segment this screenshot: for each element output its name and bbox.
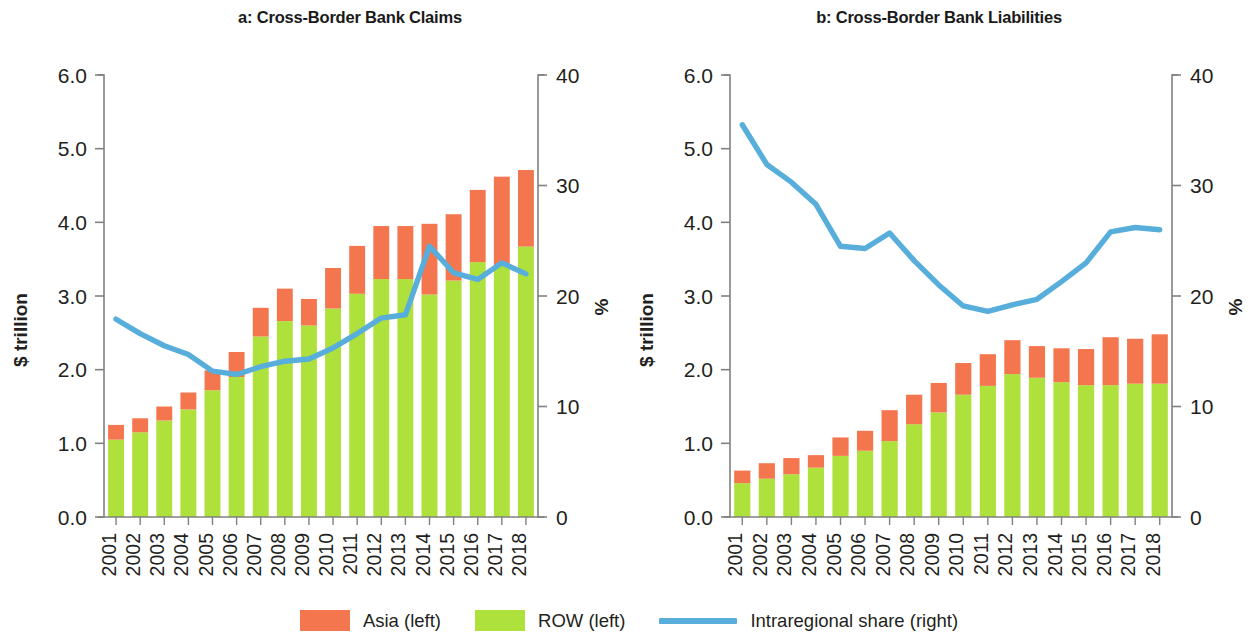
x-tick-label: 2007 xyxy=(243,533,265,576)
x-tick-label: 2004 xyxy=(798,533,820,577)
bar-segment-asia xyxy=(808,455,824,468)
intraregional-share-line xyxy=(116,246,526,374)
bar-segment-asia xyxy=(1029,346,1045,378)
bar-segment-asia xyxy=(832,437,848,455)
right-tick-label: 30 xyxy=(556,174,579,197)
legend-intraregional-share[interactable]: Intraregional share (right) xyxy=(659,610,958,632)
bar-segment-asia xyxy=(783,458,799,474)
bar-segment-row xyxy=(1103,385,1119,517)
bars-group xyxy=(108,170,534,517)
legend-color-swatch xyxy=(300,610,350,631)
bar-segment-asia xyxy=(494,177,510,265)
bar-segment-asia xyxy=(108,425,124,440)
bar-segment-row xyxy=(156,421,172,518)
bar-segment-row xyxy=(1004,374,1020,517)
bar-segment-row xyxy=(734,483,750,517)
left-tick-label: 0.0 xyxy=(58,506,87,529)
bar-segment-asia xyxy=(1004,340,1020,374)
bar-segment-row xyxy=(1152,384,1168,517)
bar-segment-row xyxy=(1053,382,1069,517)
bars-group xyxy=(734,334,1168,517)
left-tick-label: 0.0 xyxy=(684,506,713,529)
right-axis-ticks: 010203040 xyxy=(1172,64,1213,529)
figure-root: a: Cross-Border Bank Claims 0.01.02.03.0… xyxy=(0,0,1258,641)
x-tick-label: 2001 xyxy=(724,533,746,576)
x-tick-label: 2004 xyxy=(170,533,192,577)
left-tick-label: 3.0 xyxy=(58,285,87,308)
x-tick-label: 2001 xyxy=(98,533,120,576)
bar-segment-row xyxy=(931,412,947,517)
bar-segment-asia xyxy=(325,268,341,309)
bar-segment-asia xyxy=(1127,339,1143,384)
x-tick-label: 2007 xyxy=(872,533,894,576)
bar-segment-asia xyxy=(470,190,486,262)
bar-segment-asia xyxy=(980,354,996,386)
bar-segment-asia xyxy=(518,170,534,247)
x-tick-label: 2018 xyxy=(1142,533,1164,576)
bar-segment-asia xyxy=(906,395,922,424)
x-tick-label: 2014 xyxy=(1044,533,1066,577)
legend-item-label: Asia (left) xyxy=(363,610,441,632)
bar-segment-asia xyxy=(734,471,750,484)
bar-segment-asia xyxy=(349,246,365,294)
right-tick-label: 10 xyxy=(556,395,579,418)
bar-segment-asia xyxy=(277,289,293,321)
bar-segment-row xyxy=(906,424,922,517)
legend-asia[interactable]: Asia (left) xyxy=(300,610,441,632)
left-tick-label: 2.0 xyxy=(58,358,87,381)
legend-row[interactable]: ROW (left) xyxy=(475,610,625,632)
bar-segment-asia xyxy=(156,407,172,421)
left-tick-label: 6.0 xyxy=(684,64,713,87)
legend-item-label: ROW (left) xyxy=(538,610,625,632)
bar-segment-row xyxy=(955,395,971,517)
x-tick-label: 2003 xyxy=(146,533,168,576)
bar-segment-asia xyxy=(857,431,873,451)
right-tick-label: 0 xyxy=(556,506,568,529)
bar-segment-asia xyxy=(955,363,971,395)
x-tick-label: 2005 xyxy=(195,533,217,577)
left-tick-label: 5.0 xyxy=(684,137,713,160)
bar-segment-asia xyxy=(397,226,413,279)
x-tick-label: 2005 xyxy=(823,533,845,577)
bar-segment-row xyxy=(980,386,996,517)
left-tick-label: 1.0 xyxy=(58,432,87,455)
bar-segment-row xyxy=(132,432,148,517)
x-tick-label: 2008 xyxy=(267,533,289,576)
right-tick-label: 0 xyxy=(1190,506,1202,529)
right-tick-label: 20 xyxy=(556,285,579,308)
bar-segment-row xyxy=(832,456,848,517)
bar-segment-row xyxy=(205,390,221,517)
bar-segment-row xyxy=(808,468,824,517)
bar-segment-row xyxy=(783,474,799,517)
bar-segment-asia xyxy=(373,226,389,279)
x-tick-label: 2009 xyxy=(921,533,943,576)
x-tick-label: 2009 xyxy=(291,533,313,576)
x-tick-label: 2017 xyxy=(484,533,506,576)
panel-cross-border-bank-liabilities: b: Cross-Border Bank Liabilities 0.01.02… xyxy=(620,0,1258,600)
bar-segment-row xyxy=(857,451,873,517)
left-tick-label: 4.0 xyxy=(684,211,713,234)
x-tick-label: 2003 xyxy=(773,533,795,576)
panel-a-plot: 0.01.02.03.04.05.06.00102030402001200220… xyxy=(0,0,620,600)
bar-segment-row xyxy=(1078,385,1094,517)
bar-segment-asia xyxy=(931,383,947,412)
bar-segment-asia xyxy=(253,308,269,337)
x-tick-label: 2011 xyxy=(970,533,992,575)
bar-segment-row xyxy=(882,441,898,517)
x-tick-label: 2002 xyxy=(749,533,771,576)
x-tick-label: 2006 xyxy=(219,533,241,576)
bar-segment-row xyxy=(229,377,245,517)
right-axis-ticks: 010203040 xyxy=(538,64,579,529)
bar-segment-row xyxy=(518,247,534,517)
y-axis-title: $ trillion xyxy=(10,293,31,367)
x-tick-label: 2014 xyxy=(412,533,434,577)
y-axis-title: $ trillion xyxy=(636,293,657,367)
x-tick-label: 2015 xyxy=(1068,533,1090,577)
x-axis-ticks: 2001200220032004200520062007200820092010… xyxy=(724,517,1163,576)
x-axis-ticks: 2001200220032004200520062007200820092010… xyxy=(98,517,530,576)
left-tick-label: 5.0 xyxy=(58,137,87,160)
chart-legend: Asia (left)ROW (left)Intraregional share… xyxy=(0,600,1258,641)
bar-segment-asia xyxy=(1103,337,1119,385)
bar-segment-row xyxy=(1029,378,1045,517)
bar-segment-row xyxy=(1127,384,1143,517)
